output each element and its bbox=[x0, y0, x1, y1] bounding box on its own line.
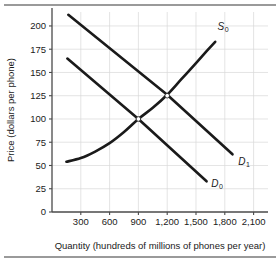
x-tick-label: 300 bbox=[73, 216, 89, 227]
y-tick-label: 25 bbox=[35, 183, 46, 194]
curve-label-s0: S0 bbox=[218, 21, 229, 34]
y-axis-label: Price (dollars per phone) bbox=[5, 58, 16, 162]
gridlines bbox=[52, 12, 268, 212]
y-tick-label: 0 bbox=[41, 206, 46, 217]
curve-d1 bbox=[68, 15, 232, 155]
y-tick-label: 175 bbox=[30, 44, 46, 55]
supply-demand-chart: 3006009001,2001,5001,8002,100 0255075100… bbox=[0, 0, 280, 263]
y-tick-label: 100 bbox=[30, 113, 46, 124]
curves bbox=[66, 15, 232, 182]
x-tick-label: 900 bbox=[130, 216, 146, 227]
x-tick-label: 1,200 bbox=[155, 216, 179, 227]
x-tick-labels: 3006009001,2001,5001,8002,100 bbox=[73, 216, 266, 227]
svg-text:D0: D0 bbox=[211, 178, 223, 191]
x-axis-label: Quantity (hundreds of millions of phones… bbox=[55, 240, 266, 251]
figure-container: 3006009001,2001,5001,8002,100 0255075100… bbox=[0, 0, 280, 263]
curve-s0 bbox=[66, 42, 215, 162]
svg-text:S0: S0 bbox=[218, 21, 229, 34]
y-tick-label: 150 bbox=[30, 67, 46, 78]
curve-labels: S0D0D1 bbox=[211, 21, 250, 191]
x-tick-label: 600 bbox=[102, 216, 118, 227]
x-tick-label: 1,800 bbox=[213, 216, 237, 227]
svg-text:D1: D1 bbox=[238, 156, 250, 169]
y-tick-label: 75 bbox=[35, 137, 46, 148]
x-tick-label: 1,500 bbox=[184, 216, 208, 227]
y-tick-label: 50 bbox=[35, 160, 46, 171]
x-tick-label: 2,100 bbox=[242, 216, 266, 227]
equilibrium-1 bbox=[165, 93, 170, 98]
axes bbox=[52, 8, 268, 212]
curve-label-d1: D1 bbox=[238, 156, 250, 169]
y-tick-labels: 0255075100125150175200 bbox=[30, 20, 46, 217]
y-tick-label: 125 bbox=[30, 90, 46, 101]
y-tick-label: 200 bbox=[30, 20, 46, 31]
equilibrium-0 bbox=[136, 117, 141, 122]
bottom-rule bbox=[4, 256, 276, 258]
top-rule bbox=[4, 4, 276, 6]
curve-label-d0: D0 bbox=[211, 178, 223, 191]
